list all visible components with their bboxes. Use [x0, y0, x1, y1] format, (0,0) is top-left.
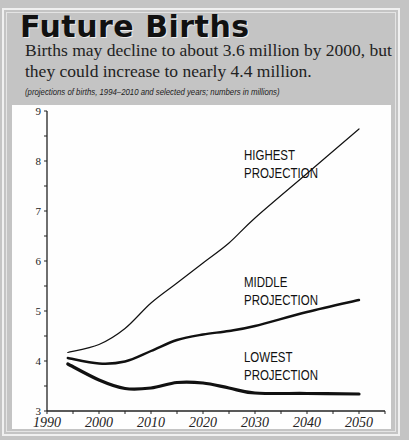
y-tick-label: 9: [36, 105, 42, 117]
x-tick-label: 2030: [241, 415, 269, 430]
series-label-middle: PROJECTION: [244, 292, 318, 308]
x-tick-label: 1990: [33, 415, 61, 430]
series-label-highest: HIGHEST: [244, 147, 295, 163]
x-tick-label: 2010: [137, 415, 165, 430]
x-tick-label: 2020: [189, 415, 217, 430]
y-tick-label: 7: [36, 205, 42, 217]
series-line-highest: [68, 129, 359, 353]
line-chart: 34567891990200020102020203020402050HIGHE…: [0, 0, 409, 440]
x-tick-label: 2040: [293, 415, 321, 430]
x-tick-label: 2000: [85, 415, 113, 430]
series-label-middle: MIDDLE: [244, 274, 287, 290]
y-tick-label: 4: [36, 355, 42, 367]
series-label-lowest: LOWEST: [244, 349, 293, 365]
series-label-highest: PROJECTION: [244, 165, 318, 181]
y-tick-label: 8: [36, 155, 42, 167]
series-line-middle: [68, 300, 359, 364]
y-tick-label: 6: [36, 255, 42, 267]
series-label-lowest: PROJECTION: [244, 367, 318, 383]
x-tick-label: 2050: [345, 415, 373, 430]
y-tick-label: 5: [36, 305, 42, 317]
